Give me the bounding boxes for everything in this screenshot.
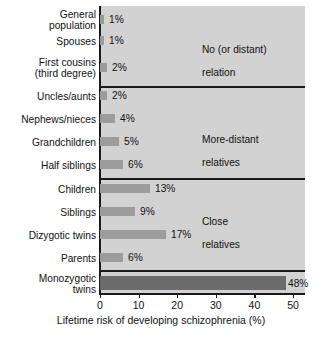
bar-value-label: 13% (155, 184, 175, 193)
table-row: Children 13% (0, 184, 322, 207)
bar (100, 91, 107, 100)
x-tick-50 (293, 294, 294, 298)
x-tick-10 (139, 294, 140, 298)
bar-value-label: 2% (112, 91, 127, 100)
row-label-line1: Parents (61, 253, 96, 264)
row-label-line1: Half siblings (41, 160, 96, 171)
annotation-line1: More-distant (202, 134, 259, 146)
bar (100, 230, 166, 239)
row-label-line1: Grandchildren (32, 137, 96, 148)
x-tick-label-0: 0 (97, 299, 103, 311)
schizophrenia-risk-chart: General population 1% Spouses 1% First c… (0, 0, 322, 341)
annotation-line2: relatives (202, 157, 259, 169)
row-label: Grandchildren (32, 137, 96, 148)
x-tick-label-10: 10 (133, 299, 145, 311)
annotation-line1: Close (202, 216, 240, 228)
x-tick-40 (254, 294, 255, 298)
annotation-close-relatives: Close relatives (202, 204, 240, 262)
bar (100, 63, 107, 72)
row-label-line1: Uncles/aunts (37, 91, 96, 102)
table-row: First cousins (third degree) 2% (0, 57, 322, 80)
table-row: Spouses 1% (0, 36, 322, 59)
row-label-line1: Dizygotic twins (29, 230, 96, 241)
table-row: Uncles/aunts 2% (0, 91, 322, 114)
table-row: General population 1% (0, 9, 322, 32)
annotation-line1: No (or distant) (202, 44, 267, 56)
row-label-line2: (third degree) (35, 68, 96, 79)
row-label: Spouses (56, 36, 96, 47)
bar (100, 207, 135, 216)
bar (100, 36, 104, 45)
annotation-line2: relation (202, 67, 267, 79)
row-label-line1: Siblings (60, 207, 96, 218)
bar (100, 114, 115, 123)
annotation-line2: relatives (202, 239, 240, 251)
x-tick-label-20: 20 (171, 299, 183, 311)
x-tick-30 (216, 294, 217, 298)
bar-value-label: 9% (140, 207, 155, 216)
table-row: Nephews/nieces 4% (0, 114, 322, 137)
x-tick-label-40: 40 (249, 299, 261, 311)
table-row: Grandchildren 5% (0, 137, 322, 160)
bar-value-label: 2% (112, 63, 127, 72)
table-row: Dizygotic twins 17% (0, 230, 322, 253)
row-label-line1: Spouses (56, 36, 96, 47)
bar (100, 184, 150, 193)
x-tick-label-50: 50 (287, 299, 299, 311)
bar (100, 253, 123, 262)
annotation-more-distant: More-distant relatives (202, 122, 259, 180)
bar-value-label: 17% (171, 230, 191, 239)
row-label-line1: Monozygotic (39, 273, 96, 284)
bar-value-label: 1% (109, 15, 124, 24)
bar-highlight (100, 276, 286, 290)
row-label: General population (49, 9, 96, 31)
bar-value-label: 1% (109, 36, 124, 45)
bar-value-label: 4% (120, 114, 135, 123)
row-label: Dizygotic twins (29, 230, 96, 241)
row-label-line1: Nephews/nieces (21, 114, 96, 125)
row-label: Siblings (60, 207, 96, 218)
bar (100, 137, 119, 146)
row-label: Parents (61, 253, 96, 264)
row-label: Monozygotic twins (39, 273, 96, 295)
row-label-line1: Children (58, 184, 96, 195)
bar (100, 15, 104, 24)
bar-value-label: 6% (128, 160, 143, 169)
row-label: First cousins (third degree) (35, 57, 96, 79)
row-label: Nephews/nieces (21, 114, 96, 125)
row-label: Children (58, 184, 96, 195)
bar-value-label: 48% (288, 279, 308, 288)
x-axis-title: Lifetime risk of developing schizophreni… (0, 314, 322, 326)
table-row: Half siblings 6% (0, 160, 322, 183)
table-row: Monozygotic twins 48% (0, 273, 322, 296)
row-label-line1: First cousins (35, 57, 96, 68)
row-label-line2: population (49, 20, 96, 31)
row-label-line1: General (49, 9, 96, 20)
x-tick-label-30: 30 (210, 299, 222, 311)
row-label: Uncles/aunts (37, 91, 96, 102)
x-tick-20 (177, 294, 178, 298)
row-label-line2: twins (39, 284, 96, 295)
bar-value-label: 5% (124, 137, 139, 146)
annotation-no-relation: No (or distant) relation (202, 32, 267, 90)
row-label: Half siblings (41, 160, 96, 171)
x-tick-0 (100, 294, 101, 298)
table-row: Siblings 9% (0, 207, 322, 230)
bar (100, 160, 123, 169)
bar-value-label: 6% (128, 253, 143, 262)
